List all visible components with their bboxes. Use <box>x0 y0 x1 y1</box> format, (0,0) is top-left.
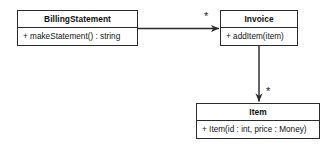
class-name-label: Invoice <box>244 14 273 24</box>
class-member-label: + makeStatement() : string <box>23 32 120 41</box>
uml-class-billingstatement[interactable]: BillingStatement + makeStatement() : str… <box>17 10 138 46</box>
class-members-compartment: + Item(id : int, price : Money) <box>197 121 319 138</box>
uml-class-invoice[interactable]: Invoice + addItem(item) <box>220 10 298 46</box>
uml-class-diagram: Invoice --> Item --> BillingStatement + … <box>0 0 334 144</box>
class-name-compartment: Item <box>197 104 319 121</box>
class-member-label: + addItem(item) <box>226 32 284 41</box>
class-members-compartment: + addItem(item) <box>221 28 297 45</box>
class-member-label: + Item(id : int, price : Money) <box>202 125 307 134</box>
class-name-label: BillingStatement <box>44 14 111 24</box>
class-name-compartment: BillingStatement <box>18 11 137 28</box>
class-name-label: Item <box>249 107 266 117</box>
uml-class-item[interactable]: Item + Item(id : int, price : Money) <box>196 103 320 139</box>
class-members-compartment: + makeStatement() : string <box>18 28 137 45</box>
multiplicity-label-invoice: * <box>204 11 208 22</box>
class-name-compartment: Invoice <box>221 11 297 28</box>
multiplicity-label-item: * <box>266 86 270 97</box>
